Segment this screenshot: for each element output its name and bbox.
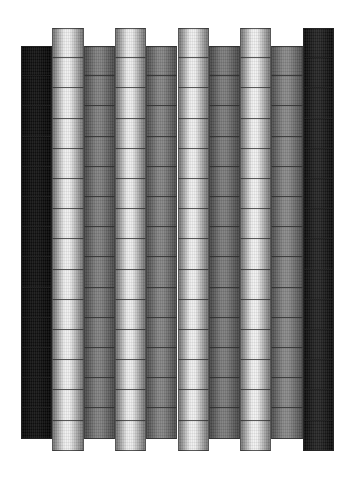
scanline-texture-overlay <box>210 318 239 347</box>
weave-band <box>271 408 302 438</box>
scanline-texture-overlay <box>241 88 270 117</box>
fiber-texture-overlay <box>147 197 176 226</box>
fiber-texture-overlay <box>210 197 239 226</box>
weave-band <box>209 76 240 106</box>
weave-band <box>240 390 271 420</box>
fiber-texture-overlay <box>85 378 114 407</box>
fiber-texture-overlay <box>53 330 82 359</box>
weave-band <box>240 421 271 451</box>
scanline-texture-overlay <box>22 106 51 135</box>
scanline-texture-overlay <box>210 137 239 166</box>
fiber-texture-overlay <box>53 300 82 329</box>
fiber-texture-overlay <box>53 88 82 117</box>
fiber-texture-overlay <box>179 29 208 57</box>
scanline-texture-overlay <box>85 227 114 256</box>
scanline-texture-overlay <box>241 119 270 148</box>
scanline-texture-overlay <box>85 257 114 286</box>
scanline-texture-overlay <box>304 88 333 117</box>
fiber-texture-overlay <box>272 408 301 437</box>
scanline-texture-overlay <box>179 300 208 329</box>
weave-band <box>21 348 52 378</box>
weave-band <box>21 408 52 438</box>
fiber-texture-overlay <box>22 378 51 407</box>
fiber-texture-overlay <box>22 167 51 196</box>
scanline-texture-overlay <box>22 257 51 286</box>
fiber-texture-overlay <box>179 239 208 268</box>
weave-column <box>178 28 209 451</box>
scanline-texture-overlay <box>210 106 239 135</box>
weave-band <box>21 76 52 106</box>
fiber-texture-overlay <box>210 106 239 135</box>
fiber-texture-overlay <box>272 348 301 377</box>
fiber-texture-overlay <box>116 88 145 117</box>
scanline-texture-overlay <box>147 288 176 317</box>
scanline-texture-overlay <box>210 257 239 286</box>
weave-band <box>178 270 209 300</box>
scanline-texture-overlay <box>53 179 82 208</box>
scanline-texture-overlay <box>22 318 51 347</box>
weave-band <box>84 197 115 227</box>
fiber-texture-overlay <box>272 167 301 196</box>
scanline-texture-overlay <box>22 227 51 256</box>
weave-band <box>146 288 177 318</box>
scanline-texture-overlay <box>304 360 333 389</box>
scanline-texture-overlay <box>179 58 208 87</box>
weave-band <box>84 318 115 348</box>
fiber-texture-overlay <box>210 288 239 317</box>
scanline-texture-overlay <box>210 76 239 105</box>
fiber-texture-overlay <box>53 29 82 57</box>
scanline-texture-overlay <box>241 421 270 450</box>
weave-band <box>209 378 240 408</box>
fiber-texture-overlay <box>85 167 114 196</box>
weave-band <box>146 227 177 257</box>
fiber-texture-overlay <box>53 421 82 450</box>
scanline-texture-overlay <box>147 137 176 166</box>
fiber-texture-overlay <box>22 348 51 377</box>
weave-band <box>303 421 334 451</box>
scanline-texture-overlay <box>272 167 301 196</box>
fiber-texture-overlay <box>210 167 239 196</box>
scanline-texture-overlay <box>85 106 114 135</box>
fiber-texture-overlay <box>179 360 208 389</box>
weave-band <box>21 167 52 197</box>
weave-band <box>21 318 52 348</box>
scanline-texture-overlay <box>147 197 176 226</box>
weave-band <box>209 348 240 378</box>
scanline-texture-overlay <box>85 318 114 347</box>
weave-band <box>84 288 115 318</box>
weave-band <box>303 390 334 420</box>
weave-column <box>209 46 240 439</box>
scanline-texture-overlay <box>304 149 333 178</box>
weave-column <box>52 28 83 451</box>
weave-band <box>52 300 83 330</box>
weave-band <box>21 378 52 408</box>
fiber-texture-overlay <box>85 257 114 286</box>
fiber-texture-overlay <box>272 227 301 256</box>
scanline-texture-overlay <box>272 318 301 347</box>
weave-band <box>271 46 302 76</box>
fiber-texture-overlay <box>179 119 208 148</box>
scanline-texture-overlay <box>179 270 208 299</box>
scanline-texture-overlay <box>210 378 239 407</box>
fiber-texture-overlay <box>85 76 114 105</box>
fiber-texture-overlay <box>179 58 208 87</box>
weave-band <box>115 149 146 179</box>
fiber-texture-overlay <box>272 76 301 105</box>
weave-band <box>115 179 146 209</box>
scanline-texture-overlay <box>85 408 114 437</box>
weave-band <box>146 408 177 438</box>
weave-column <box>115 28 146 451</box>
scanline-texture-overlay <box>85 47 114 75</box>
fiber-texture-overlay <box>241 88 270 117</box>
fiber-texture-overlay <box>116 330 145 359</box>
weave-band <box>303 119 334 149</box>
fiber-texture-overlay <box>179 330 208 359</box>
fiber-texture-overlay <box>304 270 333 299</box>
weave-band <box>146 137 177 167</box>
scanline-texture-overlay <box>210 227 239 256</box>
fiber-texture-overlay <box>272 197 301 226</box>
weave-band <box>52 28 83 58</box>
fiber-texture-overlay <box>241 209 270 238</box>
scanline-texture-overlay <box>53 300 82 329</box>
fiber-texture-overlay <box>147 348 176 377</box>
